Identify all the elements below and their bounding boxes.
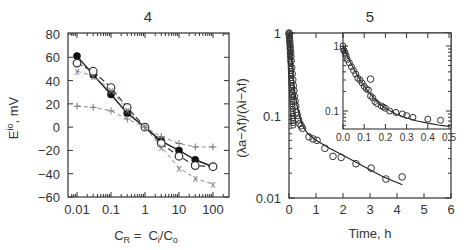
marker-x: x: [125, 105, 130, 116]
marker-plus: [176, 140, 183, 147]
marker-x: x: [211, 179, 216, 190]
y-tick-label: 80: [46, 27, 60, 42]
x-tick-label: 0: [285, 202, 292, 217]
inset-x-tick-label: 0.2: [378, 132, 392, 143]
marker-x: x: [177, 163, 182, 174]
chart-5-ylabel: (λa−λf)/(λi−λf): [234, 78, 249, 157]
chart-4-series: xxxxxxxxx: [73, 52, 217, 190]
y-tick-label: 40: [46, 74, 60, 89]
chart-4-frame: [68, 33, 229, 197]
figure-canvas: 4 0.010.1110100−60−40−20020406080 xxxxxx…: [0, 0, 464, 250]
marker-plus: [108, 107, 115, 114]
y-tick-label: 0: [53, 120, 60, 135]
y-tick-label: 1: [274, 26, 281, 41]
marker-open-circle: [175, 152, 183, 160]
series-plus: [74, 103, 217, 151]
x-tick-label: 6: [447, 202, 454, 217]
y-tick-label: 20: [46, 97, 60, 112]
marker-plus: [124, 115, 131, 122]
marker-x: x: [193, 173, 198, 184]
x-tick-label: 1: [312, 202, 319, 217]
series-line: [77, 56, 213, 167]
marker-x: x: [91, 71, 96, 82]
chart-5-inset: 0.00.10.20.30.40.50.11: [325, 33, 456, 143]
inset-y-tick-label: 1: [333, 41, 339, 52]
x-tick-label: 100: [202, 202, 224, 217]
chart-4-xlabel: CR = Ci/Co: [114, 228, 178, 245]
data-point: [310, 136, 317, 143]
chart-5-title: 5: [366, 8, 374, 25]
inset-x-tick-label: 0.1: [357, 132, 371, 143]
y-tick-label: 0.01: [256, 191, 281, 206]
x-tick-label: 2: [339, 202, 346, 217]
marker-open-circle: [209, 163, 217, 171]
data-point: [399, 174, 406, 181]
y-tick-label: 0.1: [263, 109, 281, 124]
marker-plus: [210, 143, 217, 150]
marker-plus: [192, 143, 199, 150]
y-tick-label: −20: [38, 143, 60, 158]
chart-5-xlabel: Time, h: [349, 226, 392, 241]
chart-4: 4 0.010.1110100−60−40−20020406080 xxxxxx…: [5, 8, 229, 245]
marker-x: x: [75, 66, 80, 77]
y-tick-label: −40: [38, 167, 60, 182]
inset-x-tick-label: 0.4: [421, 132, 435, 143]
x-tick-label: 0.1: [102, 202, 120, 217]
figure: 4 0.010.1110100−60−40−20020406080 xxxxxx…: [0, 0, 464, 250]
inset-x-tick-label: 0.3: [400, 132, 414, 143]
marker-x: x: [159, 142, 164, 153]
x-tick-label: 1: [141, 202, 148, 217]
inset-x-tick-label: 0.0: [336, 132, 350, 143]
inset-y-tick-label: 0.1: [325, 106, 339, 117]
x-tick-label: 3: [366, 202, 373, 217]
x-tick-label: 5: [420, 202, 427, 217]
y-tick-label: 60: [46, 50, 60, 65]
chart-4-ylabel: Eio, mV: [5, 96, 21, 139]
data-point: [338, 154, 345, 161]
x-tick-label: 4: [393, 202, 400, 217]
x-tick-label: 10: [172, 202, 186, 217]
marker-plus: [74, 103, 81, 110]
data-point: [330, 153, 337, 160]
inset-x-tick-label: 0.5: [442, 132, 456, 143]
chart-5: 5 01234560.010.11 Time, h (λa−λf)/(λi−λf…: [234, 8, 456, 241]
marker-plus: [90, 104, 97, 111]
marker-x: x: [109, 85, 114, 96]
y-tick-label: −60: [38, 190, 60, 205]
marker-open-circle: [191, 162, 199, 170]
x-tick-label: 0.01: [64, 202, 89, 217]
chart-4-title: 4: [144, 8, 152, 25]
